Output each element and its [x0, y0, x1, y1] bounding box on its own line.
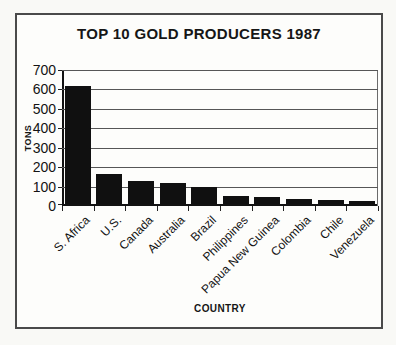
bar [286, 199, 312, 204]
y-tick-label-500: 500 [20, 101, 56, 117]
gridline-600 [62, 89, 378, 90]
gridline-300 [62, 148, 378, 149]
bar [65, 86, 91, 204]
y-tick-mark-700 [58, 70, 62, 71]
x-tick-mark [346, 206, 347, 211]
y-tick-mark-100 [58, 187, 62, 188]
bar [254, 197, 280, 204]
plot-right-border [377, 70, 378, 206]
y-tick-mark-0 [58, 204, 62, 205]
x-tick-mark [188, 206, 189, 211]
y-tick-mark-400 [58, 128, 62, 129]
y-tick-mark-500 [58, 109, 62, 110]
bar [191, 187, 217, 204]
bar [223, 196, 249, 204]
gridline-400 [62, 128, 378, 129]
x-tick-mark [315, 206, 316, 211]
x-tick-mark [157, 206, 158, 211]
y-tick-label-100: 100 [20, 179, 56, 195]
plot-area [62, 70, 378, 206]
y-tick-label-300: 300 [20, 140, 56, 156]
bar [160, 183, 186, 204]
y-tick-label-400: 400 [20, 120, 56, 136]
bar [349, 201, 375, 204]
y-tick-label-200: 200 [20, 159, 56, 175]
chart-title: TOP 10 GOLD PRODUCERS 1987 [15, 25, 383, 42]
x-tick-mark [283, 206, 284, 211]
gridline-500 [62, 109, 378, 110]
gridline-700 [62, 70, 378, 71]
x-tick-mark [62, 206, 63, 211]
x-tick-mark [252, 206, 253, 211]
x-tick-mark [125, 206, 126, 211]
y-tick-mark-600 [58, 89, 62, 90]
x-tick-mark [94, 206, 95, 211]
bar [318, 200, 344, 204]
bar [96, 174, 122, 204]
y-tick-mark-200 [58, 167, 62, 168]
x-tick-mark [220, 206, 221, 211]
y-tick-label-600: 600 [20, 81, 56, 97]
y-axis-line [62, 70, 64, 206]
y-tick-label-700: 700 [20, 62, 56, 78]
scanned-chart-page: TOP 10 GOLD PRODUCERS 1987 TONS COUNTRY … [0, 0, 396, 345]
y-tick-label-0: 0 [20, 198, 56, 214]
gridline-200 [62, 167, 378, 168]
x-tick-mark [378, 206, 379, 211]
bar [128, 181, 154, 204]
x-axis-title: COUNTRY [62, 303, 378, 314]
y-tick-mark-300 [58, 148, 62, 149]
